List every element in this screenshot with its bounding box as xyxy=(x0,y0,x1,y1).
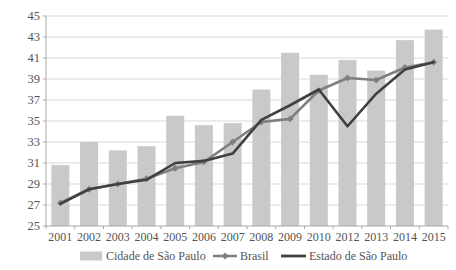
x-axis-label: 2002 xyxy=(77,230,101,244)
y-axis-label: 45 xyxy=(28,9,41,23)
y-axis-label: 27 xyxy=(28,198,41,212)
x-axis-label: 2008 xyxy=(249,230,273,244)
bar-2012 xyxy=(339,60,357,226)
legend-label-brasil: Brasil xyxy=(240,249,269,263)
legend-label-estado: Estado de São Paulo xyxy=(309,249,407,263)
legend-swatch-brasil-marker xyxy=(222,253,229,260)
bar-2006 xyxy=(195,125,213,226)
x-axis-label: 2006 xyxy=(192,230,216,244)
x-axis-label: 2010 xyxy=(307,230,331,244)
x-axis-label: 2015 xyxy=(422,230,446,244)
y-axis-label: 33 xyxy=(28,135,41,149)
legend-swatch-bar xyxy=(80,252,102,261)
bar-2008 xyxy=(252,90,270,227)
bar-2004 xyxy=(138,146,156,226)
x-axis-label: 2005 xyxy=(163,230,187,244)
bar-2003 xyxy=(109,150,127,226)
x-axis-label: 2014 xyxy=(393,230,417,244)
x-axis-label: 2013 xyxy=(364,230,388,244)
x-axis-label: 2012 xyxy=(336,230,360,244)
x-axis-label: 2007 xyxy=(221,230,245,244)
x-axis-label: 2004 xyxy=(135,230,159,244)
bar-2001 xyxy=(51,165,69,226)
x-axis-label: 2003 xyxy=(106,230,130,244)
y-axis-label: 25 xyxy=(28,219,41,233)
x-axis-label: 2009 xyxy=(278,230,302,244)
chart: 2527293133353739414345200120022003200420… xyxy=(0,0,456,270)
y-axis-label: 39 xyxy=(28,72,41,86)
y-axis-label: 43 xyxy=(28,30,41,44)
y-axis-label: 29 xyxy=(28,177,41,191)
y-axis-label: 41 xyxy=(28,51,41,65)
y-axis-label: 35 xyxy=(28,114,41,128)
legend-label-cidade: Cidade de São Paulo xyxy=(106,249,206,263)
y-axis-label: 37 xyxy=(28,93,41,107)
y-axis-label: 31 xyxy=(28,156,41,170)
bar-2002 xyxy=(80,142,98,226)
bar-2009 xyxy=(281,53,299,226)
chart-svg: 2527293133353739414345200120022003200420… xyxy=(0,0,456,270)
x-axis-label: 2001 xyxy=(48,230,72,244)
